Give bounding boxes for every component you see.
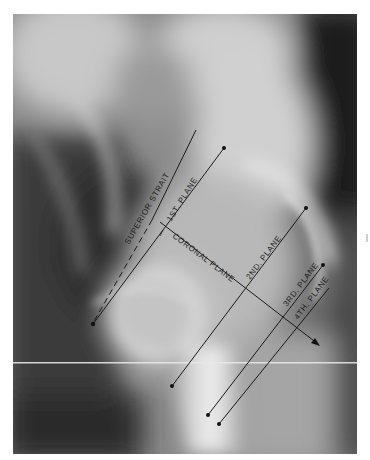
margin-mark (366, 234, 368, 242)
radiograph-image (13, 14, 357, 454)
pelvis-radiograph (13, 14, 357, 454)
